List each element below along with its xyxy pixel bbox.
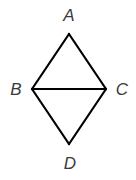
vertex-label-b: B: [10, 80, 21, 99]
edge-ab: [32, 34, 69, 89]
vertex-label-a: A: [62, 6, 74, 25]
vertex-label-c: C: [116, 80, 129, 99]
geometry-diagram: A B C D: [0, 0, 136, 180]
edge-cd: [69, 89, 106, 144]
edge-ac: [69, 34, 106, 89]
edges-group: [32, 34, 106, 144]
edge-bd: [32, 89, 69, 144]
vertex-label-d: D: [64, 154, 76, 173]
